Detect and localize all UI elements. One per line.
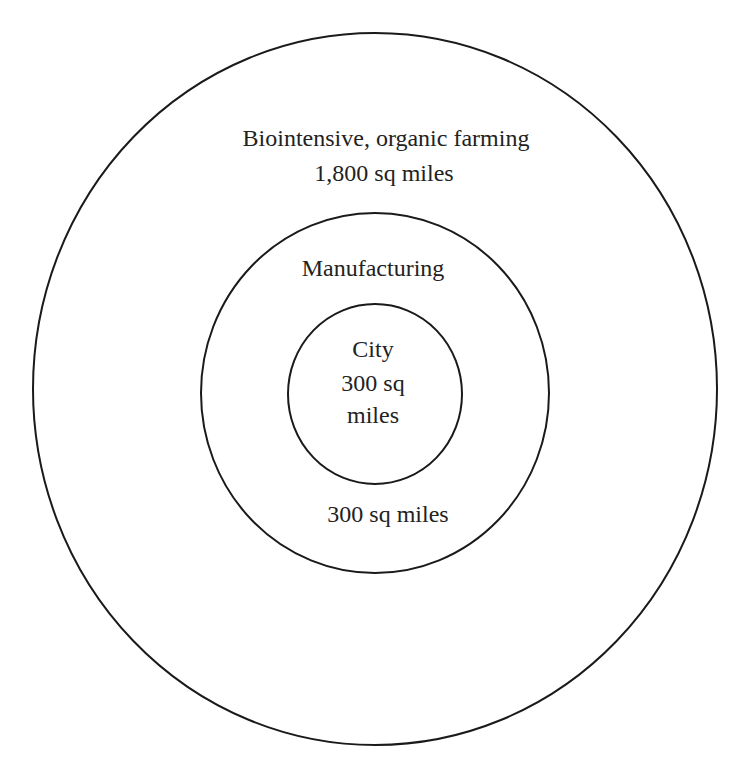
city-area-line2: miles	[347, 402, 399, 428]
city-label: City	[352, 336, 393, 362]
city-area-line1: 300 sq	[341, 370, 404, 396]
concentric-zones-diagram: Biointensive, organic farming 1,800 sq m…	[0, 0, 737, 767]
manufacturing-label: Manufacturing	[302, 255, 445, 281]
farming-area: 1,800 sq miles	[314, 160, 453, 186]
manufacturing-area: 300 sq miles	[327, 501, 448, 527]
farming-label: Biointensive, organic farming	[243, 125, 530, 151]
